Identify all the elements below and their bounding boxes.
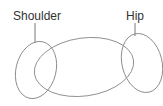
torso-diagram: Shoulder Hip [0,0,163,106]
hip-label: Hip [126,9,144,23]
hip-ellipse [115,29,163,97]
shoulder-label: Shoulder [13,9,61,23]
